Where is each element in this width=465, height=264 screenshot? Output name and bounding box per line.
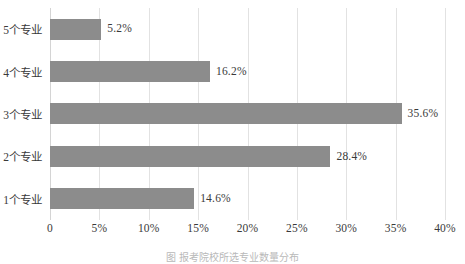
x-tick-10%: 10% bbox=[138, 222, 160, 234]
category-label-4个专业: 4个专业 bbox=[0, 50, 46, 92]
x-tick-40%: 40% bbox=[434, 222, 456, 234]
bar-3个专业 bbox=[50, 103, 402, 124]
bar-value-label: 5.2% bbox=[107, 23, 132, 35]
bar-row: 5.2% bbox=[50, 8, 445, 50]
x-tick-20%: 20% bbox=[237, 222, 259, 234]
plot-area: 5.2%16.2%35.6%28.4%14.6% bbox=[50, 8, 445, 220]
category-label-5个专业: 5个专业 bbox=[0, 8, 46, 50]
bar-value-label: 16.2% bbox=[216, 66, 247, 78]
bar-value-label: 35.6% bbox=[408, 108, 439, 120]
chart-caption: 图 报考院校所选专业数量分布 bbox=[0, 249, 465, 264]
category-label-2个专业: 2个专业 bbox=[0, 135, 46, 177]
x-tick-35%: 35% bbox=[385, 222, 407, 234]
x-tick-30%: 30% bbox=[335, 222, 357, 234]
x-tick-25%: 25% bbox=[286, 222, 308, 234]
bar-4个专业 bbox=[50, 61, 210, 82]
x-tick-15%: 15% bbox=[187, 222, 209, 234]
bar-value-label: 14.6% bbox=[200, 193, 231, 205]
category-label-3个专业: 3个专业 bbox=[0, 93, 46, 135]
bar-row: 16.2% bbox=[50, 50, 445, 92]
bar-5个专业 bbox=[50, 19, 101, 40]
x-tick-0: 0 bbox=[47, 222, 53, 234]
bar-row: 35.6% bbox=[50, 93, 445, 135]
gridline-40% bbox=[445, 8, 446, 220]
bar-value-label: 28.4% bbox=[336, 151, 367, 163]
bar-2个专业 bbox=[50, 146, 330, 167]
x-axis-ticks: 05%10%15%20%25%30%35%40% bbox=[50, 222, 445, 238]
category-label-1个专业: 1个专业 bbox=[0, 178, 46, 220]
x-tick-5%: 5% bbox=[92, 222, 108, 234]
bar-1个专业 bbox=[50, 188, 194, 209]
bar-row: 14.6% bbox=[50, 178, 445, 220]
bar-row: 28.4% bbox=[50, 135, 445, 177]
